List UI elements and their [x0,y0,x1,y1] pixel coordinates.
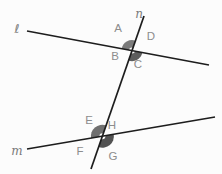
line-n [91,16,144,169]
angle-label-C: C [134,59,142,71]
angle-label-D: D [147,31,155,43]
angle-label-F: F [76,146,83,158]
angle-label-H: H [108,120,116,132]
geometry-diagram: ℓ n m A B C D E H F G [0,0,222,174]
line-label-m: m [11,145,22,157]
diagram-canvas [0,0,222,174]
line-m [27,117,215,149]
angle-label-G: G [109,151,118,163]
angle-label-A: A [114,23,122,35]
line-label-l: ℓ [15,23,20,35]
line-label-n: n [135,8,143,20]
angle-label-E: E [85,115,93,127]
angle-label-B: B [111,51,119,63]
